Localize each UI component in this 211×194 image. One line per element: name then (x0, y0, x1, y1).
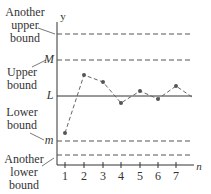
lower-bound-label: Lower bound (2, 106, 42, 132)
tick-3: 3 (98, 170, 108, 183)
L-label: L (45, 89, 55, 102)
m-label: m (44, 134, 54, 147)
tick-2: 2 (79, 170, 89, 183)
another-lower-bound-label: Another lower bound (0, 153, 48, 192)
y-axis-label: y (58, 10, 68, 23)
another-upper-bound-label: Another upper bound (0, 6, 50, 45)
tick-6: 6 (153, 170, 163, 183)
tick-5: 5 (135, 170, 145, 183)
tick-4: 4 (116, 170, 126, 183)
x-axis-label: n (194, 160, 204, 173)
tick-1: 1 (60, 170, 70, 183)
upper-bound-label: Upper bound (2, 66, 42, 92)
tick-7: 7 (171, 170, 181, 183)
sequence-line (65, 75, 192, 133)
sequence-points (63, 73, 178, 135)
M-label: M (44, 53, 54, 66)
